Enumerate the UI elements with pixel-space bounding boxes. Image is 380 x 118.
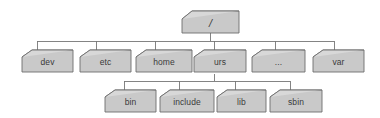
- node-ellipsis[interactable]: [252, 50, 305, 72]
- connector-group-root-to-level1: [37, 33, 334, 50]
- node-dev[interactable]: [22, 50, 73, 72]
- node-home[interactable]: [136, 50, 192, 72]
- node-sbin[interactable]: [270, 90, 322, 112]
- node-root[interactable]: [182, 11, 239, 33]
- tree-graphics: [0, 0, 380, 118]
- node-bin[interactable]: [105, 90, 156, 112]
- node-usr[interactable]: [194, 50, 246, 72]
- node-var[interactable]: [313, 50, 364, 72]
- filesystem-tree-diagram: / dev etc home urs ... var bin include l…: [0, 0, 380, 118]
- node-etc[interactable]: [80, 50, 131, 72]
- node-include[interactable]: [160, 90, 214, 112]
- node-lib[interactable]: [217, 90, 266, 112]
- connector-group-usr-to-level2: [124, 74, 290, 90]
